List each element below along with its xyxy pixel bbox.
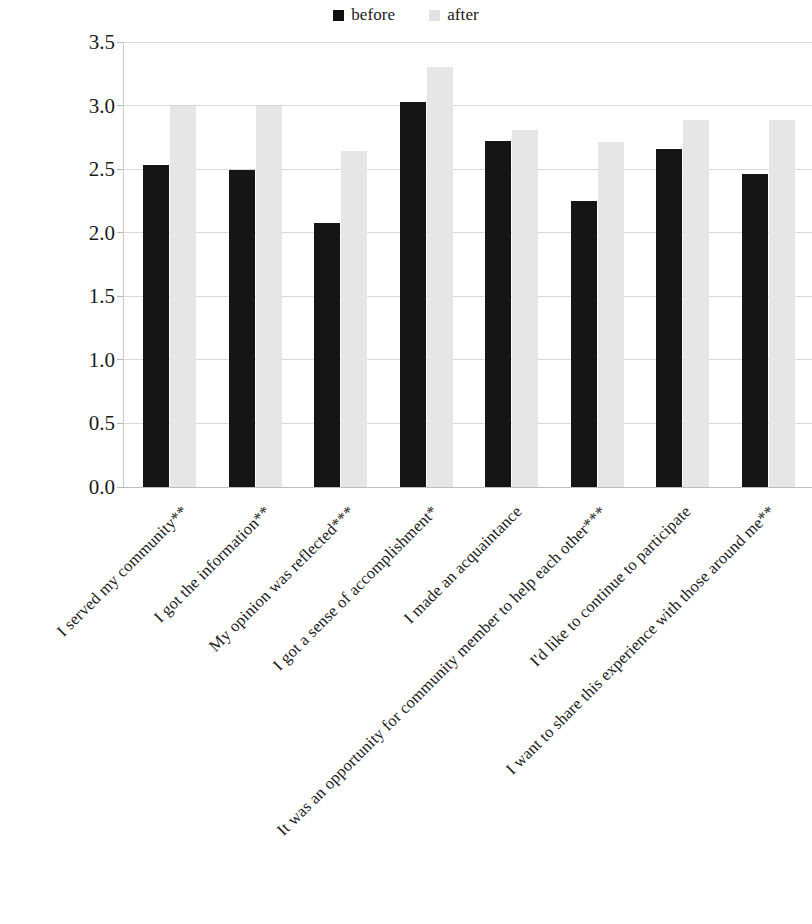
y-axis-tick-label: 0.5 (89, 413, 115, 434)
x-axis-label-3: My opinion was reflected*** (205, 502, 359, 656)
legend-swatch-before-icon (333, 10, 344, 21)
plot-area (123, 42, 812, 487)
y-axis-tick (117, 169, 123, 170)
gridline (123, 105, 812, 106)
y-axis-tick-label: 2.0 (89, 222, 115, 243)
bar-before-4 (400, 102, 426, 487)
legend-entry-before: before (333, 5, 395, 25)
x-axis-category-labels: I served my community**I got the informa… (0, 487, 812, 924)
bar-before-8 (742, 174, 768, 487)
y-axis-tick-label: 3.0 (89, 95, 115, 116)
bar-after-8 (769, 120, 795, 487)
y-axis-tick (117, 232, 123, 233)
legend-label-before: before (351, 5, 395, 25)
y-axis-tick-label: 1.5 (89, 286, 115, 307)
x-axis-label-1: I served my community** (53, 502, 192, 641)
bar-before-6 (571, 201, 597, 487)
bar-before-2 (229, 170, 255, 487)
legend-entry-after: after (429, 5, 479, 25)
bar-after-4 (427, 67, 453, 487)
x-axis-label-6: It was an opportunity for community memb… (273, 502, 611, 840)
bar-after-5 (512, 130, 538, 487)
bar-after-1 (170, 106, 196, 487)
x-axis-label-7: I'd like to continue to participate (526, 502, 695, 671)
bar-after-2 (256, 106, 282, 487)
bar-after-6 (598, 142, 624, 487)
bar-before-3 (314, 223, 340, 487)
y-axis-tick-label: 1.0 (89, 349, 115, 370)
bar-after-3 (341, 151, 367, 487)
gridline (123, 42, 812, 43)
y-axis-tick (117, 423, 123, 424)
legend-label-after: after (447, 5, 479, 25)
y-axis-tick (117, 105, 123, 106)
chart-legend: before after (0, 2, 812, 28)
bar-before-7 (656, 149, 682, 487)
y-axis-tick (117, 359, 123, 360)
bar-before-1 (143, 165, 169, 487)
bar-before-5 (485, 141, 511, 487)
y-axis-tick-labels: 0.00.51.01.52.02.53.03.5 (60, 42, 115, 487)
legend-swatch-after-icon (429, 10, 440, 21)
y-axis-tick (117, 296, 123, 297)
bar-after-7 (683, 120, 709, 487)
y-axis-tick-label: 3.5 (89, 32, 115, 53)
y-axis-tick (117, 42, 123, 43)
y-axis-line (123, 42, 124, 487)
x-axis-label-4: I got a sense of accomplishment* (269, 502, 442, 675)
y-axis-tick-label: 2.5 (89, 159, 115, 180)
